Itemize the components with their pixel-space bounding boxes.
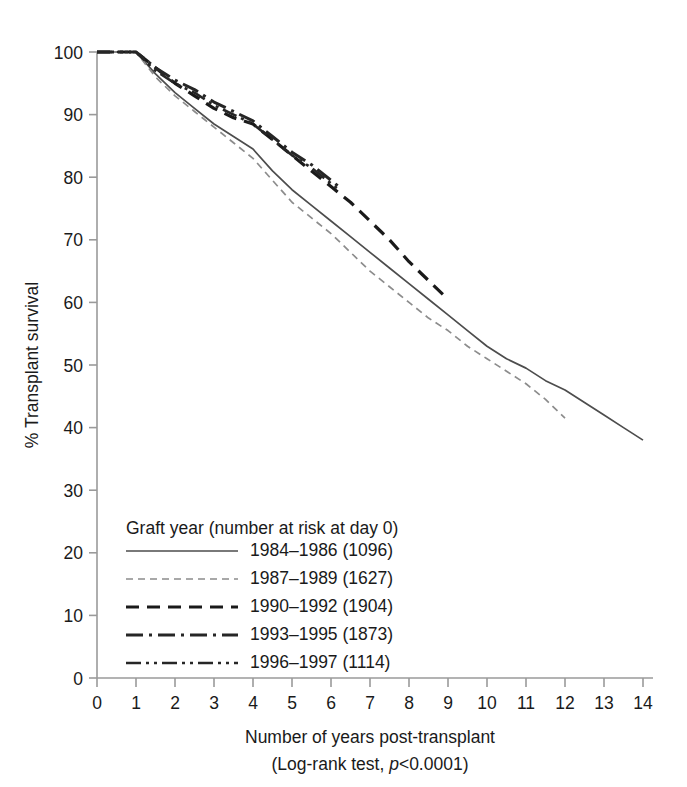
x-tick-label: 8 bbox=[404, 693, 414, 713]
series-line-1 bbox=[97, 52, 643, 440]
y-axis-title: % Transplant survival bbox=[22, 282, 42, 448]
x-tick-label: 4 bbox=[248, 693, 258, 713]
x-tick-label: 11 bbox=[517, 693, 535, 713]
plot-area: 0102030405060708090100012345678910111213… bbox=[0, 0, 687, 787]
x-tick-label: 14 bbox=[633, 693, 653, 713]
legend-label-1: 1984–1986 (1096) bbox=[250, 540, 393, 560]
y-tick-label: 40 bbox=[64, 418, 84, 438]
y-tick-label: 20 bbox=[64, 543, 84, 563]
series-lines bbox=[97, 52, 643, 440]
x-tick-label: 10 bbox=[477, 693, 497, 713]
legend-label-3: 1990–1992 (1904) bbox=[250, 596, 393, 616]
x-tick-label: 3 bbox=[209, 693, 219, 713]
x-tick-label: 9 bbox=[443, 693, 453, 713]
x-axis-title: Number of years post-transplant bbox=[245, 727, 495, 747]
x-tick-label: 12 bbox=[555, 693, 574, 713]
y-tick-label: 90 bbox=[64, 105, 84, 125]
legend-label-2: 1987–1989 (1627) bbox=[250, 568, 393, 588]
y-tick-label: 0 bbox=[73, 669, 83, 689]
y-tick-label: 70 bbox=[64, 230, 84, 250]
survival-chart-figure: 0102030405060708090100012345678910111213… bbox=[0, 0, 687, 787]
x-tick-label: 0 bbox=[92, 693, 102, 713]
y-tick-label: 10 bbox=[64, 606, 84, 626]
series-line-2 bbox=[97, 52, 565, 418]
x-tick-label: 13 bbox=[594, 693, 613, 713]
x-axis-subtitle: (Log-rank test, p<0.0001) bbox=[271, 754, 468, 774]
x-tick-label: 6 bbox=[326, 693, 336, 713]
series-line-4 bbox=[97, 52, 339, 187]
x-tick-label: 7 bbox=[365, 693, 375, 713]
series-line-5 bbox=[97, 52, 339, 190]
x-tick-label: 5 bbox=[287, 693, 297, 713]
legend-label-5: 1996–1997 (1114) bbox=[250, 652, 390, 672]
series-line-3 bbox=[97, 52, 448, 299]
y-tick-label: 50 bbox=[64, 356, 84, 376]
legend: Graft year (number at risk at day 0)1984… bbox=[126, 518, 398, 672]
legend-title: Graft year (number at risk at day 0) bbox=[126, 518, 398, 538]
legend-label-4: 1993–1995 (1873) bbox=[250, 624, 393, 644]
y-tick-label: 100 bbox=[54, 43, 83, 63]
y-tick-label: 60 bbox=[64, 293, 84, 313]
y-tick-label: 80 bbox=[64, 168, 84, 188]
x-tick-label: 2 bbox=[170, 693, 180, 713]
y-tick-label: 30 bbox=[64, 481, 84, 501]
x-tick-label: 1 bbox=[131, 693, 141, 713]
